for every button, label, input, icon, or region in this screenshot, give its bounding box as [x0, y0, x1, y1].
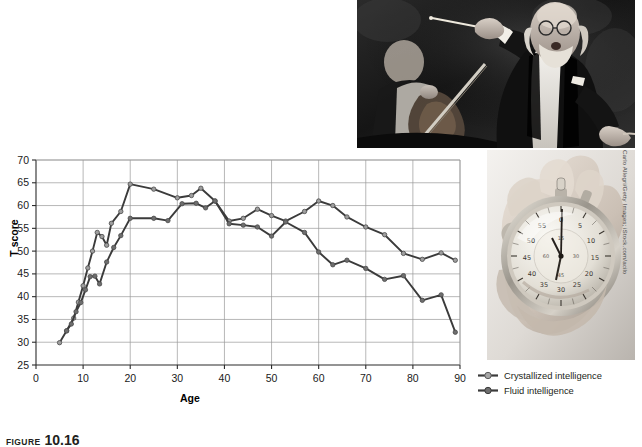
svg-text:45: 45	[523, 254, 531, 262]
legend-item-crystallized: Crystallized intelligence	[477, 368, 602, 383]
figure-container: 0 5 10 15 20 25 30 35 40 45 50 55 15	[0, 0, 642, 447]
svg-text:35: 35	[17, 313, 29, 325]
svg-text:10: 10	[587, 237, 595, 245]
svg-text:70: 70	[360, 372, 372, 384]
svg-text:30: 30	[17, 336, 29, 348]
svg-text:60: 60	[543, 253, 549, 259]
svg-text:10: 10	[77, 372, 89, 384]
svg-text:0: 0	[33, 372, 39, 384]
svg-text:90: 90	[454, 372, 466, 384]
svg-text:40: 40	[219, 372, 231, 384]
conductor-photo-graphic	[357, 0, 635, 148]
svg-text:25: 25	[17, 359, 29, 371]
svg-text:70: 70	[17, 154, 29, 166]
stopwatch-photo: 0 5 10 15 20 25 30 35 40 45 50 55 15	[487, 150, 635, 360]
figure-caption-number: 10.16	[45, 432, 80, 447]
legend-item-fluid: Fluid intelligence	[477, 383, 602, 398]
figure-caption-label: FIGURE	[6, 437, 41, 447]
svg-text:60: 60	[313, 372, 325, 384]
legend-label-fluid: Fluid intelligence	[504, 385, 574, 396]
svg-text:15: 15	[591, 254, 599, 262]
svg-text:65: 65	[17, 176, 29, 188]
photo-credit: Carlo Allegri/Getty Images; iStock.com/a…	[622, 150, 629, 360]
svg-text:30: 30	[573, 253, 579, 259]
svg-text:50: 50	[266, 372, 278, 384]
legend-swatch-fluid	[477, 385, 499, 396]
line-chart: 253035404550556065700102030405060708090	[0, 150, 500, 415]
y-axis-label: T score	[8, 203, 20, 273]
svg-text:80: 80	[407, 372, 419, 384]
svg-text:30: 30	[171, 372, 183, 384]
chart-legend: Crystallized intelligence Fluid intellig…	[477, 368, 602, 398]
legend-swatch-crystallized	[477, 370, 499, 381]
svg-text:40: 40	[17, 290, 29, 302]
chart-plot-svg: 253035404550556065700102030405060708090	[0, 150, 500, 415]
svg-text:40: 40	[528, 270, 536, 278]
legend-label-crystallized: Crystallized intelligence	[504, 370, 602, 381]
stopwatch-photo-graphic: 0 5 10 15 20 25 30 35 40 45 50 55 15	[487, 150, 635, 360]
svg-text:25: 25	[573, 281, 581, 289]
svg-text:5: 5	[578, 222, 582, 230]
svg-text:35: 35	[540, 281, 548, 289]
svg-text:20: 20	[585, 270, 593, 278]
svg-text:45: 45	[558, 272, 564, 278]
x-axis-label: Age	[180, 392, 200, 404]
svg-text:20: 20	[124, 372, 136, 384]
conductor-photo	[357, 0, 635, 148]
figure-caption: FIGURE 10.16	[6, 432, 80, 447]
svg-text:30: 30	[557, 286, 565, 294]
